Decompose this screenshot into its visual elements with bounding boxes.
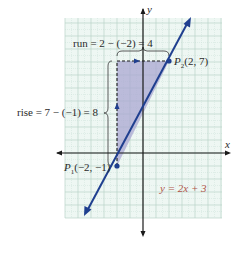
point-p1: [114, 163, 119, 168]
p2-label: P2(2, 7): [174, 55, 208, 72]
x-axis-arrow-right-icon: [225, 151, 231, 156]
y-axis-arrow-down-icon: [141, 231, 146, 237]
equation-label: y = 2x + 3: [160, 182, 207, 194]
point-p2: [166, 58, 171, 63]
rise-label: rise = 7 − (−1) = 8: [17, 106, 98, 118]
x-axis-arrow-left-icon: [56, 151, 62, 156]
x-axis-label: x: [225, 138, 230, 150]
y-axis-arrow-up-icon: [141, 8, 146, 14]
p1-label: P1(−2, −1): [64, 161, 110, 178]
run-label: run = 2 − (−2) = 4: [73, 37, 153, 49]
y-axis-label: y: [147, 3, 152, 15]
